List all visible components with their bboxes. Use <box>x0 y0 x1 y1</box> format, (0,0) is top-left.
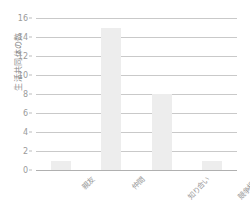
bar <box>152 94 172 170</box>
y-axis-tick-label: 2 <box>23 147 28 156</box>
y-axis-tick-mark <box>29 75 32 76</box>
y-axis-tick-label: 10 <box>18 71 28 80</box>
y-axis-tick-mark <box>29 151 32 152</box>
bar <box>101 28 121 171</box>
y-axis-tick-label: 16 <box>18 14 28 23</box>
y-axis-tick-label: 14 <box>18 33 28 42</box>
bar-series <box>36 18 237 170</box>
y-axis-tick-label: 12 <box>18 52 28 61</box>
x-axis-tick-labels: 親友仲間知り合い競争相手 <box>36 170 237 216</box>
bar-chart: 生活共同体の数 0246810121416 親友仲間知り合い競争相手 <box>0 0 250 218</box>
y-axis-tick-mark <box>29 56 32 57</box>
bar <box>202 161 222 171</box>
y-axis-tick-mark <box>29 132 32 133</box>
y-axis-tick-mark <box>29 113 32 114</box>
y-axis-tick-label: 0 <box>23 166 28 175</box>
plot-area <box>36 18 237 170</box>
x-axis-tick-label: 仲間 <box>129 174 147 192</box>
x-axis-tick-label: 知り合い <box>184 174 212 202</box>
y-axis-tick-mark <box>29 170 32 171</box>
y-axis-tick-mark <box>29 37 32 38</box>
x-axis-tick-label: 競争相手 <box>234 174 250 202</box>
y-axis-tick-labels: 0246810121416 <box>0 18 32 170</box>
y-axis-tick-label: 8 <box>23 90 28 99</box>
y-axis-tick-label: 6 <box>23 109 28 118</box>
y-axis-tick-label: 4 <box>23 128 28 137</box>
y-axis-tick-mark <box>29 18 32 19</box>
y-axis-tick-mark <box>29 94 32 95</box>
bar <box>51 161 71 171</box>
x-axis-tick-label: 親友 <box>79 174 97 192</box>
